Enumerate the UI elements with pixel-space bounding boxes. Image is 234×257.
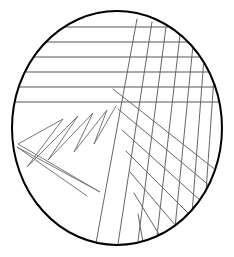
figure-container — [0, 0, 234, 257]
circle-hatching-figure — [0, 0, 234, 257]
